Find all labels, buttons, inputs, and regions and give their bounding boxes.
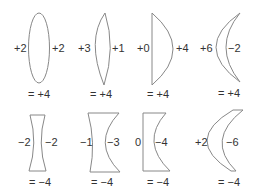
lens-asymmetric-biconvex: [95, 13, 110, 85]
lens7-left-power: 0: [135, 136, 141, 148]
lens7-right-power: −4: [155, 136, 168, 148]
lens4-left-power: +6: [200, 42, 213, 54]
lens8-left-power: +2: [195, 136, 208, 148]
lens4-total-power: = +4: [218, 87, 240, 99]
lens3-total-power: = +4: [147, 88, 169, 100]
lens-plano-convex: [152, 13, 173, 85]
lens-biconcave: [29, 115, 46, 171]
lens-biconvex: [29, 13, 50, 83]
lens2-right-power: +1: [112, 42, 125, 54]
lens4-right-power: −2: [228, 42, 241, 54]
lens6-total-power: = −4: [91, 176, 113, 188]
lens2-total-power: = +4: [90, 88, 112, 100]
lens3-left-power: +0: [137, 42, 150, 54]
lens8-right-power: −6: [226, 136, 239, 148]
lens3-right-power: +4: [176, 42, 189, 54]
lens5-total-power: = −4: [29, 176, 51, 188]
lens2-left-power: +3: [78, 42, 91, 54]
lens7-total-power: = −4: [147, 176, 169, 188]
lens5-left-power: −2: [18, 136, 31, 148]
lens8-total-power: = −4: [218, 176, 240, 188]
lens1-right-power: +2: [52, 42, 65, 54]
lens6-left-power: −1: [80, 136, 93, 148]
lens5-right-power: −2: [45, 136, 58, 148]
lens1-left-power: +2: [14, 42, 27, 54]
lens6-right-power: −3: [107, 136, 120, 148]
lens1-total-power: = +4: [28, 88, 50, 100]
